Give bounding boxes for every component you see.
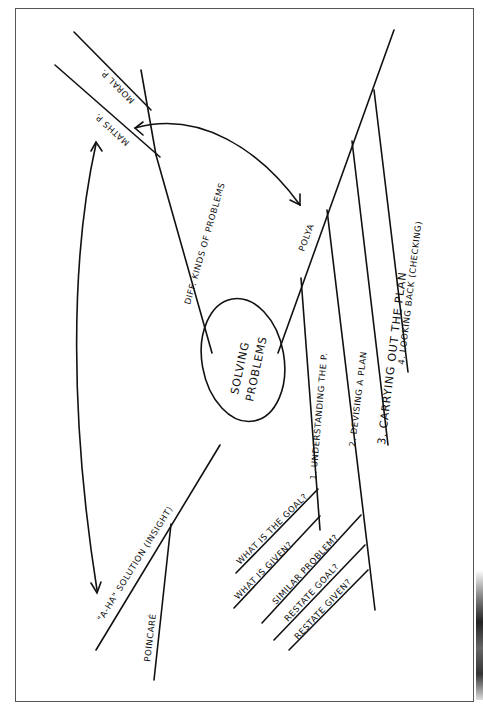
label-diff-kinds: DIFF. KINDS OF PROBLEMS <box>182 181 226 305</box>
label-moral-p: MORAL P. <box>98 67 136 105</box>
label-maths-p: MATHS P. <box>92 111 131 148</box>
branch-aha <box>96 445 220 650</box>
arrow-maths-to-aha <box>77 144 97 590</box>
branch-polya <box>278 30 394 353</box>
branch-moral-p <box>74 32 151 110</box>
arrowhead-maths <box>135 122 143 135</box>
arrowhead-top <box>91 142 102 151</box>
label-poincare: POINCARÉ <box>141 613 158 662</box>
label-polya: POLYA <box>296 222 315 252</box>
mind-map: SOLVING PROBLEMS DIFF. KINDS OF PROBLEMS… <box>0 0 483 709</box>
branch-poincare <box>154 524 171 680</box>
